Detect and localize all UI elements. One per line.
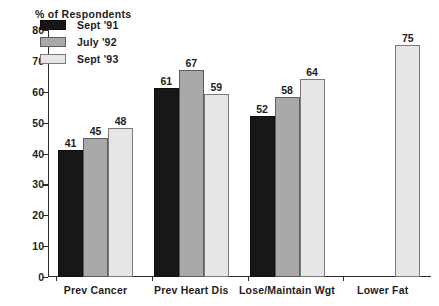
legend-label: Sept '91 xyxy=(77,19,118,31)
legend-label: Sept '93 xyxy=(77,53,118,65)
legend-item-sept-91: Sept '91 xyxy=(40,16,118,33)
legend-swatch-icon xyxy=(40,20,66,30)
bar-value-label: 75 xyxy=(402,32,414,44)
legend-item-sept-93: Sept '93 xyxy=(40,50,118,67)
bar: 61 xyxy=(154,88,179,276)
bar: 48 xyxy=(108,128,133,276)
y-tick-label: 30 xyxy=(32,178,44,190)
bar: 67 xyxy=(179,70,204,277)
y-tick-label: 20 xyxy=(32,209,44,221)
x-axis-label: Prev Cancer xyxy=(64,284,128,296)
y-tick-label: 0 xyxy=(38,271,44,283)
bar: 75 xyxy=(395,45,420,277)
x-axis-tick xyxy=(343,277,344,281)
bar-value-label: 41 xyxy=(65,137,77,149)
legend-label: July '92 xyxy=(77,36,117,48)
legend-swatch-icon xyxy=(40,54,66,64)
bar-chart: % of Respondents 01020304050607080 Prev … xyxy=(0,0,439,306)
plot-area: 01020304050607080 Prev CancerPrev Heart … xyxy=(48,30,431,277)
bar: 41 xyxy=(58,150,83,277)
x-axis-label: Prev Heart Dis xyxy=(154,284,229,296)
bar: 58 xyxy=(275,97,300,276)
bar: 52 xyxy=(250,116,275,277)
x-axis-tick xyxy=(248,277,249,281)
x-axis-label: Lose/Maintain Wgt xyxy=(239,284,335,296)
bar: 59 xyxy=(204,94,229,276)
bar-value-label: 61 xyxy=(160,75,172,87)
y-tick-label: 10 xyxy=(32,240,44,252)
y-tick-label: 50 xyxy=(32,117,44,129)
x-axis-tick xyxy=(56,277,57,281)
bar-value-label: 48 xyxy=(115,115,127,127)
bar-value-label: 67 xyxy=(185,57,197,69)
y-axis-line xyxy=(48,30,49,277)
bar-value-label: 64 xyxy=(306,66,318,78)
bar-value-label: 45 xyxy=(90,125,102,137)
legend-item-july-92: July '92 xyxy=(40,33,118,50)
y-tick-label: 40 xyxy=(32,148,44,160)
bar-value-label: 58 xyxy=(281,84,293,96)
legend-swatch-icon xyxy=(40,37,66,47)
chart-legend: Sept '91 July '92 Sept '93 xyxy=(40,16,118,67)
bar-value-label: 52 xyxy=(256,103,268,115)
x-axis-tick xyxy=(152,277,153,281)
bar-value-label: 59 xyxy=(210,81,222,93)
bar: 45 xyxy=(83,138,108,277)
bar: 64 xyxy=(300,79,325,277)
y-tick-label: 60 xyxy=(32,86,44,98)
x-axis-label: Lower Fat xyxy=(357,284,408,296)
